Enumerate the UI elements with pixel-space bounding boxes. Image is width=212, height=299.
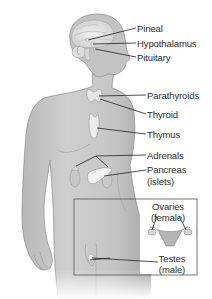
label-pineal: Pineal (137, 23, 163, 34)
label-pituitary: Pituitary (137, 52, 170, 63)
label-pancreas-sub: (islets) (147, 176, 174, 187)
endocrine-diagram: Pineal Hypothalamus Pituitary Parathyroi… (0, 0, 212, 299)
label-testes-sub: (male) (152, 264, 192, 275)
label-thymus: Thymus (147, 129, 180, 140)
label-hypothalamus: Hypothalamus (137, 38, 197, 49)
label-testes: Testes (152, 253, 192, 264)
label-pancreas: Pancreas (147, 164, 186, 175)
label-ovaries-sub: (female) (148, 212, 188, 223)
label-thyroid: Thyroid (147, 109, 178, 120)
thymus-gland (89, 114, 99, 138)
left-kidney (70, 169, 80, 187)
label-adrenals: Adrenals (147, 150, 184, 161)
label-parathyroids: Parathyroids (147, 90, 199, 101)
label-ovaries: Ovaries (148, 201, 188, 212)
